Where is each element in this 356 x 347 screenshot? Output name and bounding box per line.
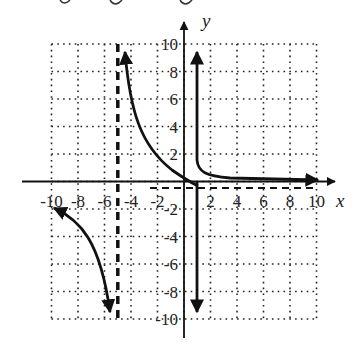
left-branch-curve <box>54 208 110 312</box>
y-tick-label: -8 <box>164 283 178 302</box>
y-tick-label: -10 <box>155 310 178 329</box>
x-tick-labels: -10-8-6-4-2246810 <box>40 192 325 211</box>
cropped-header-text <box>60 0 192 4</box>
y-tick-label: 2 <box>170 145 179 164</box>
x-tick-label: -8 <box>71 192 85 211</box>
y-axis-label: y <box>200 10 211 31</box>
x-tick-label: 4 <box>233 192 242 211</box>
x-axis-label: x <box>335 190 345 211</box>
x-tick-label: -4 <box>124 192 139 211</box>
y-tick-label: 10 <box>161 35 178 54</box>
x-tick-label: 2 <box>206 192 215 211</box>
graph: -10-8-6-4-2246810 108642-2-4-6-8-10 x y <box>0 0 356 347</box>
y-tick-label: 6 <box>170 90 179 109</box>
y-tick-label: 4 <box>170 118 179 137</box>
y-tick-label: -6 <box>164 255 178 274</box>
y-tick-label: -4 <box>164 228 179 247</box>
y-tick-label: -2 <box>164 200 178 219</box>
x-tick-label: 6 <box>259 192 268 211</box>
middle-branch-curve <box>125 52 198 186</box>
x-tick-label: -6 <box>97 192 111 211</box>
x-tick-label: 8 <box>286 192 295 211</box>
x-tick-label: -2 <box>150 192 164 211</box>
x-tick-label: -10 <box>40 192 63 211</box>
y-tick-label: 8 <box>170 63 179 82</box>
x-tick-label: 10 <box>308 192 325 211</box>
